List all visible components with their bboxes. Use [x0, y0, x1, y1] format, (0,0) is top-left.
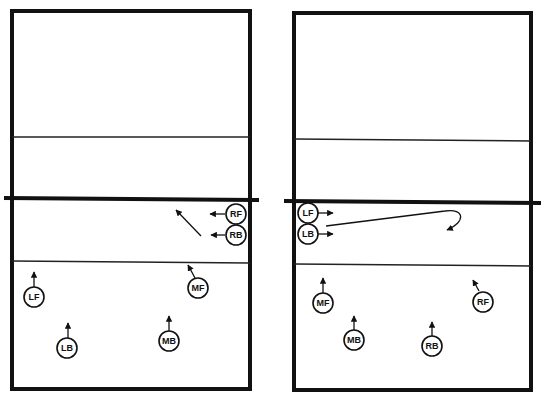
- net-left: [4, 198, 259, 200]
- player-lf: LF: [24, 272, 44, 307]
- player-label: RF: [230, 209, 242, 219]
- player-mf: MF: [188, 265, 208, 298]
- player-mb: MB: [159, 316, 179, 351]
- player-mb: MB: [344, 316, 364, 350]
- player-label: MB: [347, 335, 361, 345]
- attack-line-bottom: [294, 264, 531, 266]
- attack-line-top: [294, 139, 531, 141]
- player-lb: LB: [57, 323, 77, 358]
- player-label: LF: [303, 208, 314, 218]
- player-label: MF: [192, 283, 205, 293]
- arrow-icon: [473, 280, 479, 291]
- player-label: RF: [477, 297, 489, 307]
- arrow-icon: [176, 210, 201, 236]
- player-label: MB: [162, 336, 176, 346]
- player-lf: LF: [298, 203, 333, 223]
- player-label: LB: [61, 343, 73, 353]
- player-rb: RB: [422, 322, 442, 356]
- player-rf: RF: [473, 280, 493, 312]
- arrow-icon: [188, 265, 195, 278]
- player-label: RB: [426, 341, 439, 351]
- player-rf: RF: [210, 204, 246, 224]
- arrow-icon: [326, 211, 461, 230]
- player-label: MF: [317, 298, 330, 308]
- player-label: LB: [302, 229, 314, 239]
- attack-line-bottom: [12, 261, 250, 263]
- player-label: RB: [230, 230, 243, 240]
- player-mf: MF: [313, 278, 333, 313]
- player-label: LF: [29, 292, 40, 302]
- diagram-canvas: RF RB MF LF LB MB: [0, 0, 541, 405]
- net-right: [284, 201, 541, 203]
- player-lb: LB: [298, 211, 461, 244]
